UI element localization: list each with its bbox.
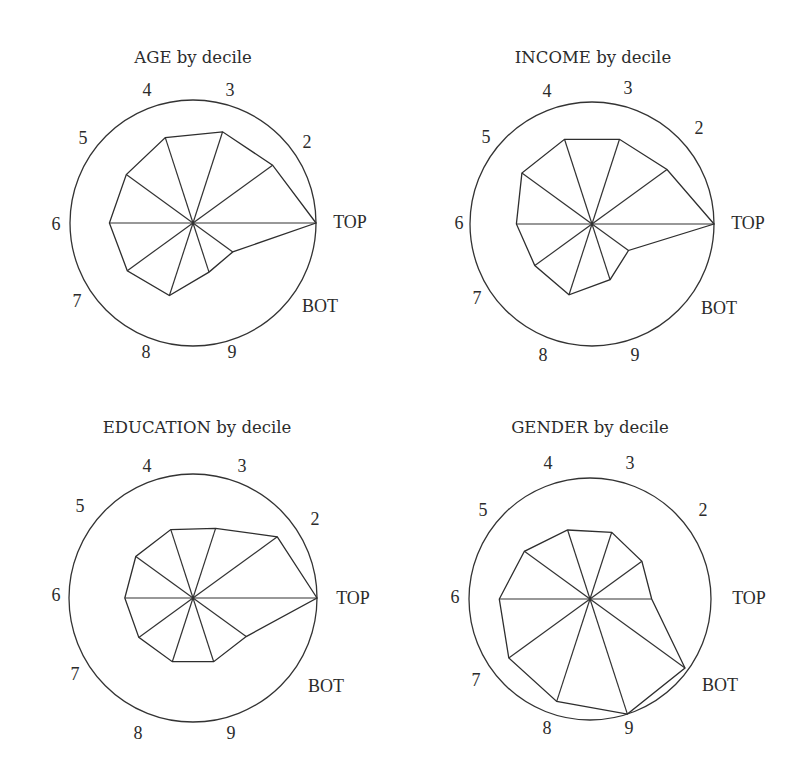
axis-label-9: 9 bbox=[625, 718, 634, 738]
axis-label-7: 7 bbox=[71, 664, 80, 684]
spoke-line bbox=[522, 173, 592, 224]
axis-label-6: 6 bbox=[451, 587, 460, 607]
data-polygon bbox=[499, 530, 685, 714]
axis-label-5: 5 bbox=[79, 128, 88, 148]
axis-label-3: 3 bbox=[238, 456, 247, 476]
spoke-line bbox=[535, 224, 592, 266]
axis-label-bot: BOT bbox=[701, 298, 737, 318]
spoke-line bbox=[592, 224, 610, 280]
chart-title: EDUCATION by decile bbox=[103, 418, 292, 437]
axis-label-5: 5 bbox=[76, 496, 85, 516]
axis-label-9: 9 bbox=[228, 342, 237, 362]
axis-label-8: 8 bbox=[142, 342, 151, 362]
radar-chart-education: EDUCATION by decile TOP 2 3 4 5 6 7 8 9 … bbox=[52, 418, 370, 744]
spoke-line bbox=[169, 223, 193, 296]
axis-label-9: 9 bbox=[631, 345, 640, 365]
data-polygon bbox=[125, 528, 317, 661]
axis-label-4: 4 bbox=[143, 456, 152, 476]
chart-title: INCOME by decile bbox=[515, 48, 671, 67]
axis-label-2: 2 bbox=[695, 118, 704, 138]
axis-label-4: 4 bbox=[143, 80, 152, 100]
axis-label-top: TOP bbox=[732, 588, 766, 608]
spoke-line bbox=[136, 557, 193, 599]
axis-label-7: 7 bbox=[473, 288, 482, 308]
axis-label-7: 7 bbox=[73, 291, 82, 311]
axis-label-top: TOP bbox=[731, 213, 765, 233]
axis-labels: TOP 2 3 4 5 6 7 8 9 BOT bbox=[52, 80, 367, 362]
spoke-line bbox=[568, 530, 590, 599]
axis-label-bot: BOT bbox=[308, 676, 344, 696]
axis-label-7: 7 bbox=[472, 670, 481, 690]
spoke-line bbox=[592, 224, 629, 251]
axis-label-6: 6 bbox=[455, 213, 464, 233]
data-polygon bbox=[109, 132, 316, 296]
axis-label-bot: BOT bbox=[302, 296, 338, 316]
spoke-line bbox=[524, 551, 590, 599]
axis-label-bot: BOT bbox=[702, 675, 738, 695]
axis-label-top: TOP bbox=[333, 212, 367, 232]
spoke-line bbox=[139, 598, 193, 637]
radar-chart-gender: GENDER by decile TOP 2 3 4 5 6 7 8 9 BOT bbox=[451, 418, 766, 739]
axis-labels: TOP 2 3 4 5 6 7 8 9 BOT bbox=[455, 78, 765, 365]
spoke-line bbox=[193, 132, 223, 223]
axis-label-top: TOP bbox=[336, 588, 370, 608]
spoke-line bbox=[193, 223, 233, 252]
spoke-line bbox=[193, 223, 209, 272]
spoke-line bbox=[590, 599, 685, 668]
axis-label-4: 4 bbox=[544, 453, 553, 473]
spoke-line bbox=[590, 599, 627, 714]
radar-chart-age: AGE by decile TOP 2 3 4 5 6 7 8 9 BOT bbox=[52, 48, 367, 363]
axis-label-5: 5 bbox=[482, 127, 491, 147]
chart-title: AGE by decile bbox=[133, 48, 251, 67]
radar-chart-income: INCOME by decile TOP 2 3 4 5 6 7 8 9 BOT bbox=[455, 48, 765, 366]
spoke-line bbox=[165, 138, 193, 223]
spoke-line bbox=[193, 598, 246, 637]
data-polygon bbox=[516, 139, 714, 294]
spoke-line bbox=[592, 139, 620, 224]
spoke-line bbox=[569, 224, 592, 295]
spoke-line bbox=[193, 537, 277, 598]
axis-label-2: 2 bbox=[699, 500, 708, 520]
spoke-line bbox=[592, 170, 667, 225]
spoke-line bbox=[193, 598, 214, 662]
axis-label-6: 6 bbox=[52, 585, 61, 605]
axis-label-8: 8 bbox=[539, 345, 548, 365]
axis-label-5: 5 bbox=[479, 500, 488, 520]
spoke-line bbox=[590, 532, 612, 599]
spoke-line bbox=[126, 175, 193, 223]
axis-label-8: 8 bbox=[543, 718, 552, 738]
axis-label-8: 8 bbox=[134, 723, 143, 743]
axis-label-3: 3 bbox=[226, 80, 235, 100]
spoke-line bbox=[171, 530, 193, 598]
spoke-line bbox=[193, 528, 216, 598]
spoke-line bbox=[172, 598, 193, 662]
spokes bbox=[125, 528, 317, 661]
spoke-line bbox=[509, 599, 590, 658]
spoke-line bbox=[127, 223, 193, 271]
axis-labels: TOP 2 3 4 5 6 7 8 9 BOT bbox=[451, 453, 766, 738]
axis-label-3: 3 bbox=[626, 453, 635, 473]
chart-title: GENDER by decile bbox=[511, 418, 669, 437]
axis-label-9: 9 bbox=[227, 723, 236, 743]
spoke-line bbox=[565, 139, 593, 224]
spoke-line bbox=[193, 165, 273, 223]
axis-label-2: 2 bbox=[311, 509, 320, 529]
spoke-line bbox=[590, 561, 642, 599]
axis-label-6: 6 bbox=[52, 214, 61, 234]
axis-labels: TOP 2 3 4 5 6 7 8 9 BOT bbox=[52, 456, 370, 743]
spokes bbox=[109, 132, 316, 296]
spoke-line bbox=[557, 599, 590, 701]
axis-label-3: 3 bbox=[624, 78, 633, 98]
axis-label-4: 4 bbox=[543, 81, 552, 101]
spokes bbox=[499, 530, 685, 714]
radar-chart-figure: AGE by decile TOP 2 3 4 5 6 7 8 9 BOT IN… bbox=[0, 0, 803, 772]
axis-label-2: 2 bbox=[303, 132, 312, 152]
